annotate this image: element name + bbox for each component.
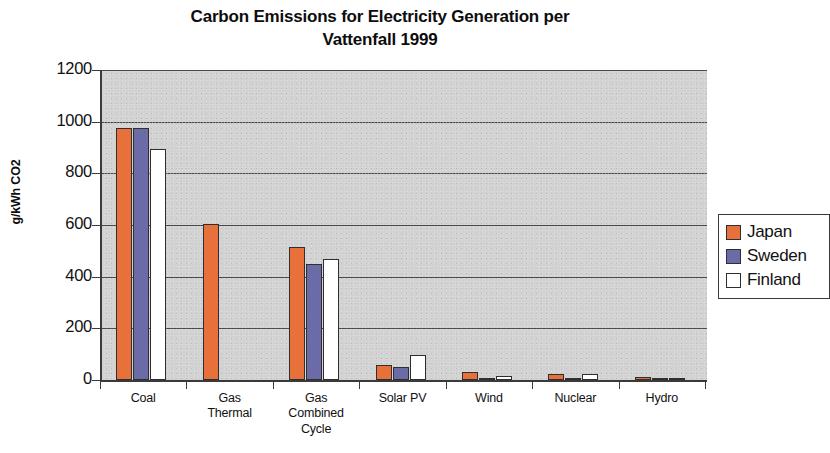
- bar: [652, 378, 668, 381]
- bar: [116, 128, 132, 380]
- y-axis-tick: [92, 122, 100, 123]
- y-axis-tick: [92, 380, 100, 381]
- bar: [203, 224, 219, 380]
- bar: [548, 374, 564, 380]
- x-axis-category-label: Wind: [446, 391, 532, 406]
- chart-title: Carbon Emissions for Electricity Generat…: [80, 6, 680, 52]
- y-axis-tick-label: 1200: [14, 59, 92, 78]
- legend-item[interactable]: Finland: [726, 268, 825, 292]
- legend-swatch-icon: [726, 225, 741, 240]
- bar: [133, 128, 149, 380]
- bar: [669, 378, 685, 381]
- y-axis-tick: [92, 70, 100, 71]
- bar: [376, 365, 392, 380]
- y-axis-tick-label: 800: [14, 162, 92, 181]
- y-axis-tick: [92, 277, 100, 278]
- x-axis-category-label: Nuclear: [532, 391, 618, 406]
- x-axis-tick: [186, 380, 187, 389]
- x-axis-category-label-line: Hydro: [619, 391, 705, 406]
- chart-title-line-1: Carbon Emissions for Electricity Generat…: [80, 6, 680, 29]
- legend-item-label: Sweden: [747, 246, 807, 266]
- bar: [306, 264, 322, 380]
- gridline: [102, 225, 707, 226]
- bar: [150, 149, 166, 380]
- legend-swatch-icon: [726, 249, 741, 264]
- x-axis-category-label-line: Cycle: [273, 422, 359, 437]
- y-axis-tick-label: 0: [14, 369, 92, 388]
- gridline: [102, 70, 707, 71]
- x-axis-category-label-line: Thermal: [186, 406, 272, 421]
- x-axis-category-label: GasCombinedCycle: [273, 391, 359, 437]
- bar: [323, 259, 339, 380]
- y-axis-tick-label: 1000: [14, 111, 92, 130]
- x-axis-tick: [273, 380, 274, 389]
- bar: [496, 376, 512, 380]
- gridline: [102, 122, 707, 123]
- x-axis-category-label-line: Solar PV: [359, 391, 445, 406]
- x-axis-tick: [619, 380, 620, 389]
- legend-item-label: Japan: [747, 222, 792, 242]
- x-axis-category-label-line: Combined: [273, 406, 359, 421]
- y-axis-tick-label: 200: [14, 317, 92, 336]
- bar: [393, 367, 409, 380]
- bar: [565, 378, 581, 381]
- chart-title-line-2: Vattenfall 1999: [80, 29, 680, 52]
- x-axis-category-label-line: Nuclear: [532, 391, 618, 406]
- y-axis-tick: [92, 225, 100, 226]
- x-axis-tick: [359, 380, 360, 389]
- legend-swatch-icon: [726, 273, 741, 288]
- gridline: [102, 277, 707, 278]
- legend-item-label: Finland: [747, 270, 801, 290]
- x-axis-category-label-line: Coal: [100, 391, 186, 406]
- bar: [462, 372, 478, 380]
- x-axis-category-label: Coal: [100, 391, 186, 406]
- y-axis-tick-label: 600: [14, 214, 92, 233]
- x-axis-tick: [532, 380, 533, 389]
- x-axis-category-label-line: Gas: [186, 391, 272, 406]
- x-axis-category-label: Hydro: [619, 391, 705, 406]
- x-axis-category-label-line: Gas: [273, 391, 359, 406]
- bar: [289, 247, 305, 380]
- x-axis-tick: [446, 380, 447, 389]
- legend-item[interactable]: Sweden: [726, 244, 825, 268]
- y-axis-tick-label: 400: [14, 266, 92, 285]
- x-axis-category-label: GasThermal: [186, 391, 272, 422]
- x-axis-tick: [705, 380, 706, 389]
- gridline: [102, 328, 707, 329]
- y-axis-tick: [92, 173, 100, 174]
- bar: [410, 355, 426, 380]
- y-axis-tick: [92, 328, 100, 329]
- x-axis-category-label: Solar PV: [359, 391, 445, 406]
- gridline: [102, 173, 707, 174]
- y-axis-title: g/kWh CO2: [9, 132, 23, 252]
- x-axis-category-label-line: Wind: [446, 391, 532, 406]
- chart-legend: JapanSwedenFinland: [718, 214, 830, 299]
- legend-item[interactable]: Japan: [726, 220, 825, 244]
- bar: [635, 377, 651, 380]
- plot-area: [100, 70, 707, 382]
- bar: [582, 374, 598, 380]
- bar: [479, 378, 495, 381]
- x-axis-tick: [100, 380, 101, 389]
